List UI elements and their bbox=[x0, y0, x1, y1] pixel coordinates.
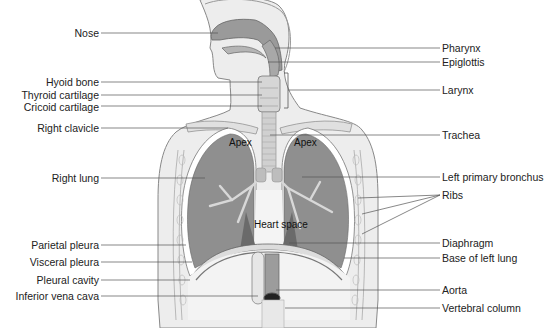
label-left-primary-bronchus: Left primary bronchus bbox=[442, 171, 544, 183]
label-base-of-left-lung: Base of left lung bbox=[442, 252, 517, 264]
label-thyroid-cartilage: Thyroid cartilage bbox=[21, 89, 99, 101]
label-aorta: Aorta bbox=[442, 284, 467, 296]
label-pleural-cavity: Pleural cavity bbox=[37, 274, 99, 286]
label-visceral-pleura: Visceral pleura bbox=[30, 256, 99, 268]
label-nose: Nose bbox=[74, 27, 99, 39]
label-vertebral-column: Vertebral column bbox=[442, 302, 521, 314]
label-inferior-vena-cava: Inferior vena cava bbox=[16, 290, 99, 302]
label-diaphragm: Diaphragm bbox=[442, 237, 493, 249]
label-apex-right: Apex bbox=[229, 137, 252, 148]
label-right-lung: Right lung bbox=[52, 172, 99, 184]
respiratory-diagram: Nose Hyoid bone Thyroid cartilage Cricoi… bbox=[0, 0, 553, 328]
aorta bbox=[265, 254, 279, 298]
label-pharynx: Pharynx bbox=[442, 42, 481, 54]
label-heart-space: Heart space bbox=[254, 219, 308, 230]
vertebral-column bbox=[262, 300, 284, 328]
larynx-cartilage bbox=[258, 76, 280, 112]
label-ribs: Ribs bbox=[442, 189, 463, 201]
label-hyoid-bone: Hyoid bone bbox=[46, 76, 99, 88]
label-trachea: Trachea bbox=[442, 129, 480, 141]
label-cricoid-cartilage: Cricoid cartilage bbox=[24, 101, 99, 113]
label-right-clavicle: Right clavicle bbox=[37, 122, 99, 134]
label-apex-left: Apex bbox=[294, 137, 317, 148]
label-larynx: Larynx bbox=[442, 84, 474, 96]
label-parietal-pleura: Parietal pleura bbox=[31, 239, 99, 251]
label-epiglottis: Epiglottis bbox=[442, 56, 485, 68]
